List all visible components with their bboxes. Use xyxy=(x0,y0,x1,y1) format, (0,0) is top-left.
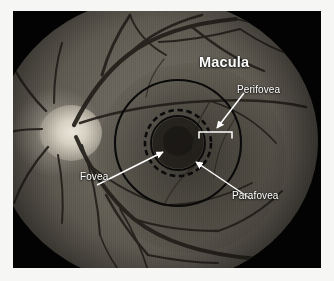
photo-plate xyxy=(13,11,321,268)
label-macula: Macula xyxy=(199,54,249,70)
perifovea-span-bracket xyxy=(199,132,232,138)
label-perifovea: Perifovea xyxy=(237,84,280,95)
label-parafovea: Parafovea xyxy=(232,190,279,201)
screenshot-root: Macula Perifovea Fovea Parafovea xyxy=(0,0,334,281)
callout-layer xyxy=(13,11,321,268)
perifovea-leader xyxy=(217,93,244,128)
label-fovea: Fovea xyxy=(80,171,108,182)
